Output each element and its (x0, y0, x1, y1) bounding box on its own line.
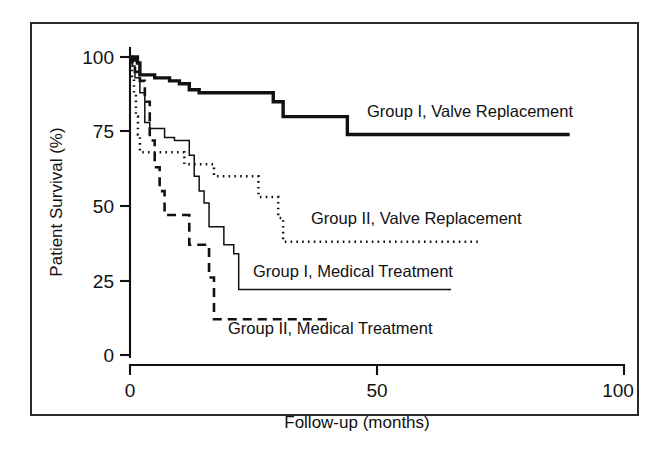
curve-group1-medical-treatment (130, 60, 451, 289)
y-tick-label-25: 25 (93, 271, 114, 292)
x-tick-label-50: 50 (366, 380, 387, 401)
figure-root: 100 75 50 25 0 0 50 100 Follow-up (month… (0, 0, 671, 462)
x-tick-label-100: 100 (602, 380, 634, 401)
label-group2-valve-replacement: Group II, Valve Replacement (311, 209, 522, 227)
label-group2-medical-treatment: Group II, Medical Treatment (228, 319, 433, 337)
label-group1-valve-replacement: Group I, Valve Replacement (367, 102, 573, 120)
x-tick-group: 0 50 100 (125, 365, 634, 401)
x-tick-label-0: 0 (125, 380, 136, 401)
y-tick-label-0: 0 (103, 345, 114, 366)
y-tick-label-50: 50 (93, 196, 114, 217)
y-axis-title: Patient Survival (%) (47, 127, 66, 276)
y-tick-label-75: 75 (93, 121, 114, 142)
survival-plot-canvas: 100 75 50 25 0 0 50 100 Follow-up (month… (0, 0, 671, 462)
label-group1-medical-treatment: Group I, Medical Treatment (253, 262, 453, 280)
curve-group1-valve-replacement (130, 57, 570, 134)
y-tick-group: 100 75 50 25 0 (82, 47, 130, 366)
x-axis-title: Follow-up (months) (284, 413, 430, 432)
axis-group (130, 48, 624, 365)
y-tick-label-100: 100 (82, 47, 114, 68)
series-label-group: Group I, Valve Replacement Group II, Val… (228, 102, 573, 337)
